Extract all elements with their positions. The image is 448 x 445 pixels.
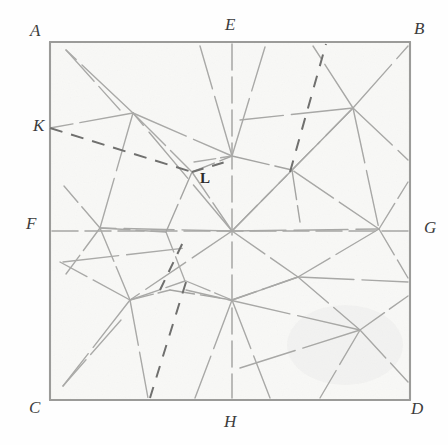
vertex-label-G: G (424, 219, 436, 236)
figure-page: A B C D E F G H K L (0, 0, 448, 445)
vertex-label-L: L (200, 171, 210, 186)
vertex-label-D: D (411, 400, 423, 417)
vertex-label-F: F (26, 215, 36, 232)
vertex-label-H: H (224, 413, 236, 430)
vertex-label-B: B (414, 20, 424, 37)
vertex-label-K: K (33, 117, 44, 134)
vertex-label-E: E (225, 16, 235, 33)
pencil-smudge (287, 305, 403, 385)
vertex-label-C: C (29, 399, 40, 416)
vertex-label-A: A (30, 22, 40, 39)
geometric-figure (0, 0, 448, 445)
